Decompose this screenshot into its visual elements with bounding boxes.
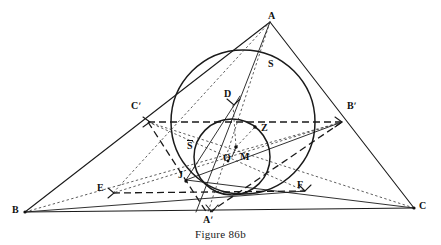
dot-C: [412, 206, 415, 209]
label-point-A: A: [268, 11, 275, 21]
dashed-segment-Cprime-to-Aprime: [148, 122, 207, 213]
label-point-D: D: [224, 89, 231, 99]
label-point-J: J: [178, 170, 183, 180]
dot-J: [184, 179, 187, 182]
side-BC: [25, 208, 414, 212]
dotted-M-to-Z: [236, 127, 255, 147]
figure-caption: Figure 86b: [0, 228, 441, 240]
dotted-C-to-Cprime: [148, 122, 414, 208]
side-AC: [270, 22, 414, 208]
dotted-B-to-Bprime: [25, 122, 342, 212]
geometry-canvas: [0, 0, 441, 245]
label-point-Z: Z: [261, 123, 268, 133]
label-point-B: B: [12, 205, 19, 215]
label-point-O: O: [223, 153, 231, 163]
dashed-segment-Bprime-to-Aprime: [210, 122, 342, 212]
label-point-M: M: [240, 152, 250, 162]
label-point-A-prime: Aʹ: [203, 215, 213, 225]
segment-B-to-F: [25, 191, 305, 212]
figure-86b: A B C Aʹ Bʹ Cʹ D E F J M O Z S S Figure …: [0, 0, 441, 245]
label-circle-S: S: [268, 59, 274, 69]
label-point-C-prime: Cʹ: [131, 101, 141, 111]
label-point-F: F: [297, 180, 303, 190]
label-point-B-prime: Bʹ: [347, 101, 357, 111]
label-circle-S-bar-text: S: [187, 141, 193, 151]
label-point-C: C: [419, 201, 426, 211]
dot-M: [234, 145, 238, 149]
label-point-E: E: [97, 183, 104, 193]
dot-B: [23, 210, 26, 213]
label-circle-S-bar: S: [187, 141, 193, 151]
dot-Z: [253, 125, 256, 128]
